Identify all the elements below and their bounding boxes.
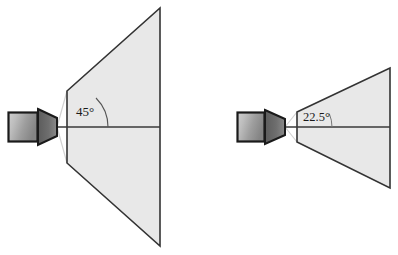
right-camera-lens: [265, 110, 285, 144]
left-camera-group: 45°: [9, 8, 161, 246]
right-camera-group: 22.5°: [238, 68, 391, 188]
camera-fov-diagram: 45° 22.5°: [0, 0, 398, 255]
left-camera-lens: [38, 109, 57, 145]
right-angle-label: 22.5°: [303, 110, 330, 124]
right-view-frustum: [297, 68, 390, 188]
figure-root: 45° 22.5°: [0, 0, 398, 255]
left-angle-label: 45°: [76, 104, 94, 119]
left-camera-body: [9, 113, 38, 142]
right-camera-body: [238, 113, 265, 142]
